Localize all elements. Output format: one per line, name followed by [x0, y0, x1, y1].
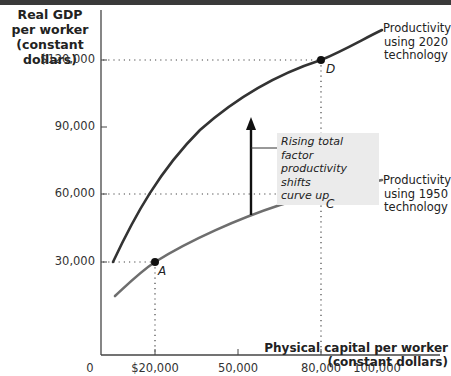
x-axis-title: Physical capital per worker (constant do… [264, 341, 448, 369]
guide-lines [103, 60, 321, 355]
point-label-a: A [158, 264, 166, 278]
annotation-line: productivity shifts [281, 162, 375, 189]
x-tick-label: $20,000 [131, 361, 179, 375]
y-tick-label: 60,000 [55, 186, 95, 200]
curve-label-line: technology [383, 201, 449, 215]
x-tick-label: 50,000 [218, 361, 258, 375]
annotation-box: Rising total factor productivity shifts … [277, 133, 379, 205]
x-axis-title-line: Physical capital per worker [264, 341, 448, 355]
point-d [317, 56, 325, 64]
arrow-head-icon [246, 117, 256, 130]
y-tick-label: 90,000 [55, 119, 95, 133]
curve-label-1950: Productivity using 1950 technology [383, 174, 449, 215]
curve-label-line: using 1950 [383, 188, 449, 202]
curve-label-line: Productivity [383, 22, 449, 36]
point-label-c: C [326, 197, 334, 211]
point-label-d: D [326, 62, 335, 76]
curve-label-line: technology [383, 49, 449, 63]
curve-label-2020: Productivity using 2020 technology [383, 22, 449, 63]
annotation-line: Rising total factor [281, 135, 375, 162]
y-tick-label: $120,000 [40, 52, 95, 66]
x-tick-label: 0 [86, 361, 93, 375]
curve-label-line: Productivity [383, 174, 449, 188]
y-axis-title-line: per worker [0, 22, 100, 37]
y-axis-title-line: Real GDP [0, 7, 100, 22]
x-axis-title-line: (constant dollars) [264, 355, 448, 369]
curve-label-line: using 2020 [383, 36, 449, 50]
y-tick-label: 30,000 [55, 254, 95, 268]
